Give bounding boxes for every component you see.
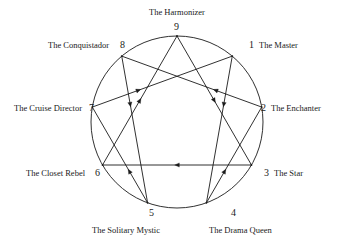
enneagram-arrowheads-group bbox=[128, 89, 226, 174]
node-number-7: 7 bbox=[89, 103, 94, 113]
node-point-9 bbox=[176, 35, 178, 37]
arrowhead-9-to-3 bbox=[211, 97, 215, 102]
node-point-4 bbox=[206, 202, 208, 204]
node-label-4: The Drama Queen bbox=[209, 226, 272, 235]
node-point-3 bbox=[251, 164, 253, 166]
node-number-9: 9 bbox=[174, 22, 179, 32]
node-label-5: The Solitary Mystic bbox=[92, 226, 160, 235]
node-label-7: The Cruise Director bbox=[14, 104, 82, 113]
node-point-5 bbox=[147, 202, 149, 204]
node-number-5: 5 bbox=[149, 208, 154, 218]
node-label-3: The Star bbox=[274, 169, 303, 178]
node-label-9: The Harmonizer bbox=[149, 8, 205, 17]
arrowhead-5-to-7 bbox=[128, 169, 132, 174]
arrowhead-6-to-9 bbox=[137, 99, 141, 104]
arrowhead-4-to-2 bbox=[222, 169, 226, 174]
enneagram-figure bbox=[0, 0, 359, 248]
node-point-6 bbox=[102, 164, 104, 166]
enneagram-outer-circle bbox=[91, 36, 263, 208]
enneagram-diagram: 9The Harmonizer1The Master2The Enchanter… bbox=[0, 0, 359, 248]
node-label-1: The Master bbox=[259, 41, 298, 50]
arrowhead-2-to-8 bbox=[213, 89, 218, 93]
enneagram-circle-group bbox=[91, 36, 263, 208]
node-label-6: The Closet Rebel bbox=[26, 169, 85, 178]
node-label-8: The Conquistador bbox=[48, 41, 109, 50]
node-number-4: 4 bbox=[231, 208, 236, 218]
arrowhead-8-to-5 bbox=[128, 102, 132, 107]
arrowhead-3-to-6 bbox=[175, 163, 180, 167]
node-number-6: 6 bbox=[95, 168, 100, 178]
node-point-1 bbox=[231, 55, 233, 57]
enneagram-triangle-group bbox=[103, 36, 252, 165]
arrowhead-7-to-1 bbox=[136, 89, 141, 93]
node-point-8 bbox=[121, 55, 123, 57]
enneagram-hexad-group bbox=[92, 56, 261, 203]
node-number-8: 8 bbox=[120, 40, 125, 50]
node-number-1: 1 bbox=[249, 40, 254, 50]
node-number-2: 2 bbox=[261, 103, 266, 113]
node-label-2: The Enchanter bbox=[271, 104, 321, 113]
node-number-3: 3 bbox=[264, 168, 269, 178]
arrowhead-1-to-4 bbox=[222, 102, 226, 107]
